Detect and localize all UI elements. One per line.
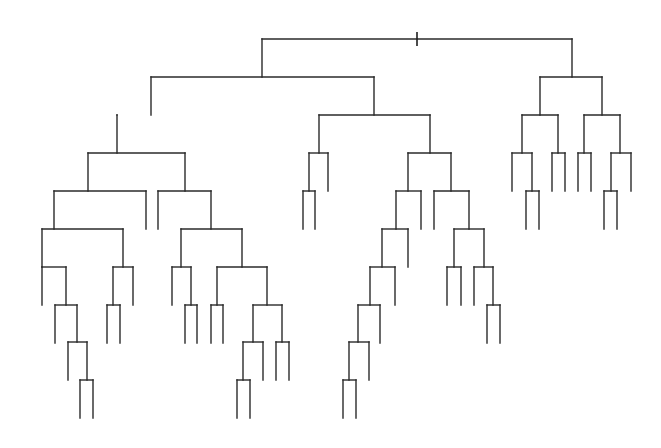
- dendrogram-tree: [0, 0, 661, 448]
- dendrogram-canvas: [0, 0, 661, 448]
- tree-edges: [42, 39, 631, 418]
